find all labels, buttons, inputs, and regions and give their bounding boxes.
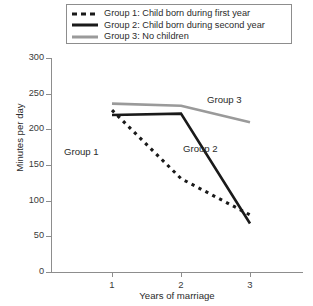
series-annotation-group1: Group 1 [64, 146, 99, 157]
series-line-group1 [112, 110, 250, 215]
series-annotation-group2: Group 2 [183, 143, 218, 154]
series-annotation-group3: Group 3 [207, 94, 242, 105]
plot-area [0, 0, 313, 306]
chart-figure: Group 1: Child born during first year Gr… [0, 0, 313, 306]
series-line-group2 [112, 114, 250, 224]
